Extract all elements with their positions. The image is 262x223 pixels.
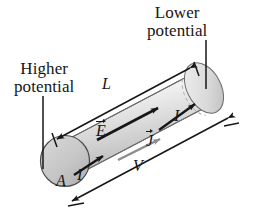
voltage-label: V xyxy=(133,158,143,175)
current-label-left: I xyxy=(77,167,82,184)
vector-accent-e-icon xyxy=(96,118,106,124)
vector-accent-j-icon xyxy=(146,128,153,134)
length-label: L xyxy=(102,76,111,93)
physics-diagram-current-in-conductor: Lower potential Higher potential L V A I… xyxy=(0,0,262,223)
lower-potential-label: Lower potential xyxy=(147,4,207,39)
field-vector-label: E xyxy=(96,118,106,139)
current-label-right: I xyxy=(174,108,179,125)
current-density-vector-label: J xyxy=(146,128,153,149)
higher-potential-label: Higher potential xyxy=(14,60,74,95)
diagram-canvas xyxy=(0,0,262,223)
area-label: A xyxy=(56,173,66,190)
